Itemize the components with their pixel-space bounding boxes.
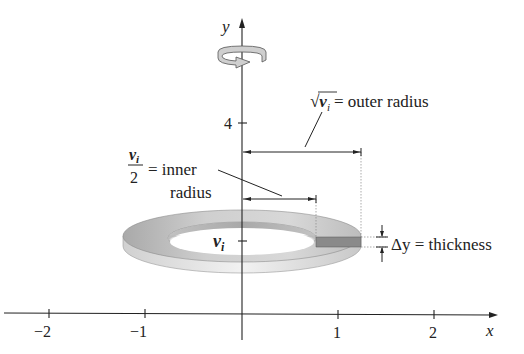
outer-radius-label: √vi= outer radius xyxy=(310,92,429,113)
inner-radius-text-2: radius xyxy=(170,183,212,202)
x-tick-label-1: 1 xyxy=(333,324,341,341)
y-axis-label: y xyxy=(220,17,230,36)
thickness-label: Δy = thickness xyxy=(391,235,492,254)
x-tick-label-2: 2 xyxy=(429,324,437,341)
x-axis xyxy=(4,313,492,315)
washer-diagram: y x −2 −1 1 2 4 vi √vi= outer radius vi … xyxy=(0,0,524,354)
inner-radius-denominator: 2 xyxy=(130,169,138,186)
inner-radius-leader xyxy=(218,170,282,196)
x-axis-arrow-icon xyxy=(489,312,498,318)
inner-radius-text: = inner xyxy=(148,160,197,179)
x-axis-label: x xyxy=(485,321,494,340)
y-axis-arrow-icon xyxy=(239,18,245,28)
slice-rectangle xyxy=(316,237,361,247)
x-tick-label-neg2: −2 xyxy=(34,323,51,340)
outer-radius-leader xyxy=(305,112,322,147)
x-tick-label-neg1: −1 xyxy=(130,323,147,340)
inner-radius-numerator: vi xyxy=(129,146,140,165)
axes xyxy=(4,18,498,340)
y-tick-label-4: 4 xyxy=(224,115,232,132)
